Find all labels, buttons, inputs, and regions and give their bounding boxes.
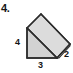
triangular-prism-illustration xyxy=(0,0,73,73)
dimension-label-left-height: 4 xyxy=(15,38,20,47)
dimension-label-bottom-base: 3 xyxy=(38,61,43,70)
problem-number-label: 4. xyxy=(1,3,10,14)
figure-container: 4. 4 3 2 xyxy=(0,0,73,73)
dimension-label-right-depth: 2 xyxy=(64,50,69,59)
